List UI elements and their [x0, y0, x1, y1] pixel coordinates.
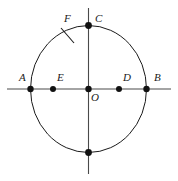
- point-dot-e: [50, 86, 56, 92]
- point-label-e: E: [57, 72, 64, 83]
- point-label-d: D: [123, 72, 131, 83]
- point-dot-b: [143, 86, 149, 92]
- figure-canvas: [0, 0, 178, 181]
- point-dot-d: [116, 86, 122, 92]
- point-dot-a: [27, 86, 33, 92]
- point-dot-c: [85, 22, 92, 29]
- point-label-o: O: [91, 92, 99, 103]
- point-label-a: A: [19, 72, 26, 83]
- point-label-f: F: [64, 13, 71, 24]
- point-label-c: C: [95, 13, 102, 24]
- point-label-b: B: [154, 72, 161, 83]
- point-dot-s: [85, 149, 92, 156]
- geometry-figure: AEODBCF: [0, 0, 178, 181]
- arc-tick-mark: [61, 28, 74, 43]
